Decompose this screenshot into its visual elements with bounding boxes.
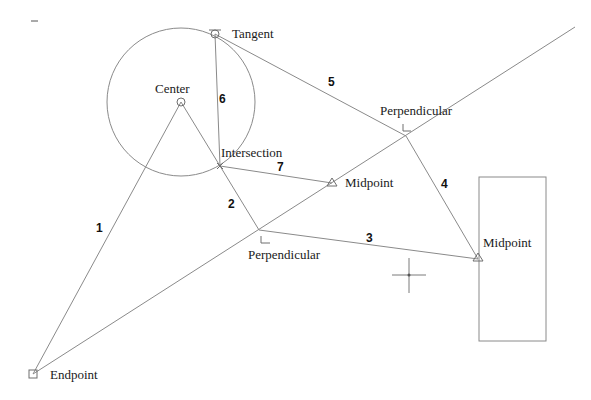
segment-6-label: 6 — [219, 92, 226, 106]
segment-7-label: 7 — [277, 160, 284, 174]
segment-4-label: 4 — [441, 177, 448, 191]
segment-1-label: 1 — [96, 221, 103, 235]
long-construction-line[interactable] — [33, 27, 575, 374]
segment-7[interactable] — [220, 166, 332, 183]
segment-3-label: 3 — [366, 231, 373, 245]
tangent-label: Tangent — [232, 26, 274, 41]
segment-2-label: 2 — [228, 197, 235, 211]
endpoint-label: Endpoint — [50, 367, 98, 382]
perpendicular-snap-icon-upper — [403, 124, 411, 131]
midpoint-rect-label: Midpoint — [483, 235, 532, 250]
center-label: Center — [155, 81, 190, 96]
drawing-canvas[interactable]: Tangent Center Intersection Perpendicula… — [0, 0, 591, 400]
segment-5-label: 5 — [328, 75, 335, 89]
rectangle[interactable] — [479, 177, 546, 341]
segment-4[interactable] — [406, 136, 478, 259]
crosshair-cursor-icon — [392, 258, 426, 293]
intersection-label: Intersection — [221, 145, 283, 160]
perpendicular-lower-label: Perpendicular — [248, 247, 321, 262]
perpendicular-snap-icon-lower — [261, 236, 270, 243]
perpendicular-upper-label: Perpendicular — [380, 103, 453, 118]
segment-5[interactable] — [215, 34, 406, 136]
midpoint-snap-icon-rect — [473, 253, 483, 261]
midpoint-line-label: Midpoint — [345, 175, 394, 190]
segment-1[interactable] — [33, 102, 181, 374]
